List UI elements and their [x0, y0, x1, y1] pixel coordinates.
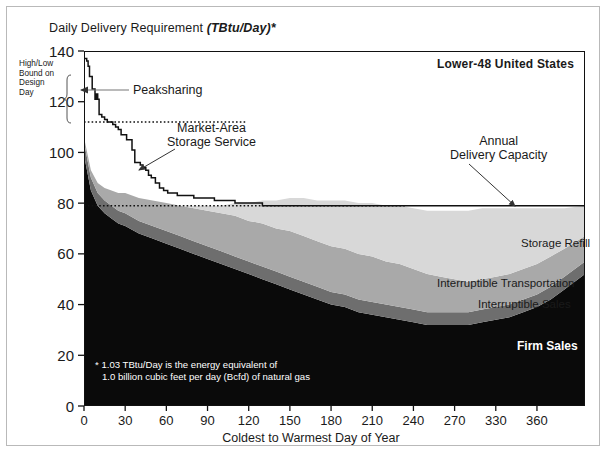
band-label-interruptible-transportation: Interruptible Transportation	[437, 277, 574, 289]
x-tick-label: 180	[320, 413, 342, 428]
y-tick-label: 40	[57, 296, 74, 313]
x-axis-title: Coldest to Warmest Day of Year	[7, 431, 608, 445]
x-tick-label: 210	[361, 413, 383, 428]
plot-area	[84, 51, 585, 406]
annotation-annual-delivery-capacity: Annual Delivery Capacity	[450, 134, 547, 162]
x-tick-label: 330	[485, 413, 507, 428]
y-tick-label: 120	[49, 93, 74, 110]
annotation-adc-line1: Annual	[450, 134, 547, 148]
annotation-adc-line2: Delivery Capacity	[450, 148, 547, 162]
x-tick-label: 120	[238, 413, 260, 428]
y-tick-label: 60	[57, 245, 74, 262]
x-tick-label: 30	[118, 413, 132, 428]
x-tick-label: 0	[80, 413, 87, 428]
annotation-mas-line2: Storage Service	[167, 135, 256, 149]
y-tick-label: 100	[49, 144, 74, 161]
x-tick-label: 360	[526, 413, 548, 428]
y-tick-label: 140	[49, 43, 74, 60]
band-label-firm-sales: Firm Sales	[517, 339, 578, 353]
y-tick-label: 20	[57, 347, 74, 364]
x-tick-label: 150	[279, 413, 301, 428]
footnote-line2: 1.0 billion cubic feet per day (Bcfd) of…	[95, 371, 310, 383]
band-label-storage-refill: Storage Refill	[521, 237, 590, 249]
footnote: * 1.03 TBtu/Day is the energy equivalent…	[95, 359, 310, 382]
annotation-mas-line1: Market-Area	[167, 121, 256, 135]
y-tick-label: 80	[57, 195, 74, 212]
annotation-market-area-storage: Market-Area Storage Service	[167, 121, 256, 149]
y-tick-label: 0	[66, 398, 74, 415]
x-tick-label: 90	[200, 413, 214, 428]
chart-frame: Daily Delivery Requirement (TBtu/Day)* H…	[6, 6, 600, 446]
x-tick-label: 270	[444, 413, 466, 428]
region-label: Lower-48 United States	[437, 57, 574, 71]
footnote-line1: * 1.03 TBtu/Day is the energy equivalent…	[95, 359, 310, 371]
x-tick-label: 240	[403, 413, 425, 428]
x-tick-label: 60	[159, 413, 173, 428]
annotation-peaksharing: Peaksharing	[133, 83, 203, 97]
band-label-interruptible-sales: Interruptible Sales	[478, 298, 571, 310]
